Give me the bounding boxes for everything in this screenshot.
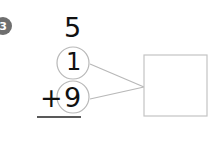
- bottom-addend: 9: [64, 84, 81, 111]
- operator: +: [40, 84, 63, 111]
- middle-addend: 1: [66, 50, 81, 74]
- answer-box[interactable]: [144, 55, 207, 116]
- diagram-lines: [0, 0, 221, 141]
- top-addend: 5: [64, 14, 81, 41]
